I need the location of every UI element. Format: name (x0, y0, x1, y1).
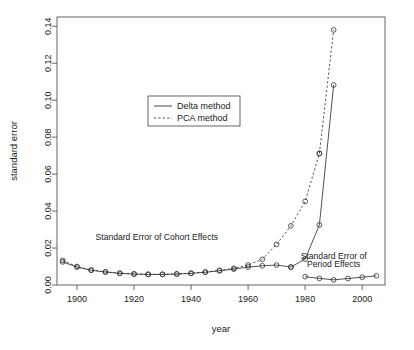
legend-label-pca: PCA method (177, 113, 228, 123)
y-tick-label: 0.04 (43, 202, 53, 220)
legend-label-delta: Delta method (177, 101, 231, 111)
chart-legend: Delta methodPCA method (148, 96, 240, 126)
chart-canvas: 0.000.020.040.060.080.100.120.14 1900192… (0, 0, 414, 350)
x-tick-label: 1900 (67, 294, 87, 304)
standard-error-line-chart: 0.000.020.040.060.080.100.120.14 1900192… (0, 0, 414, 350)
y-tick-label: 0.06 (43, 165, 53, 183)
x-tick-label: 1960 (238, 294, 258, 304)
plot-annotation: Period Effects (307, 259, 360, 269)
y-tick-label: 0.02 (43, 239, 53, 257)
y-tick-label: 0.10 (43, 91, 53, 109)
x-axis-title: year (212, 323, 230, 334)
x-tick-label: 1980 (295, 294, 315, 304)
y-tick-label: 0.08 (43, 128, 53, 146)
y-tick-label: 0.12 (43, 54, 53, 72)
x-tick-label: 1920 (124, 294, 144, 304)
x-tick-label: 1940 (181, 294, 201, 304)
y-tick-label: 0.00 (43, 276, 53, 294)
y-axis-title: standard error (8, 121, 19, 181)
x-tick-label: 2000 (352, 294, 372, 304)
y-tick-label: 0.14 (43, 17, 53, 35)
plot-annotation: Standard Error of Cohort Effects (96, 232, 219, 242)
